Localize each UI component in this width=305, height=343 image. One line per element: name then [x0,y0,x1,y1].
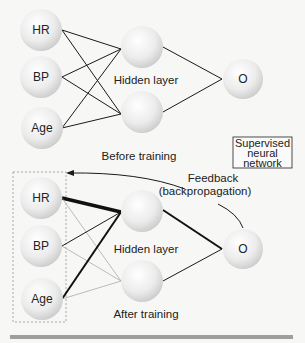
hidden-node-1 [121,26,163,68]
output-label: O [238,242,247,256]
hidden-node-2 [121,91,163,133]
before-training-caption: Before training [102,150,177,162]
neural-network-diagram: HR BP Age Hidden layer O Before training… [0,0,305,343]
hidden-layer-label: Hidden layer [114,74,179,86]
backpropagation-label: (backpropagation) [159,185,252,197]
after-training-caption: After training [113,308,178,320]
input-label-hr: HR [32,23,50,37]
supervised-neural-network-box: Supervised neural network [233,137,292,169]
input-label-hr: HR [32,191,50,205]
output-label: O [238,72,247,86]
before-training-network: HR BP Age Hidden layer O Before training [20,9,263,162]
input-label-bp: BP [33,239,49,253]
before-input-nodes: HR BP Age [20,9,63,149]
after-hidden-nodes: Hidden layer [114,190,179,302]
hidden-node-1 [121,190,163,232]
bottom-divider-bar [10,335,293,339]
input-label-bp: BP [33,70,49,84]
svg-text:network: network [243,157,282,169]
before-hidden-nodes: Hidden layer [114,26,179,133]
after-input-nodes: HR BP Age [20,177,63,320]
feedback-label: Feedback [188,172,239,184]
hidden-node-2 [121,260,163,302]
input-label-age: Age [31,292,53,306]
hidden-layer-label: Hidden layer [114,243,179,255]
feedback-leader-line [218,204,243,228]
input-label-age: Age [31,121,53,135]
after-output-node: O [223,229,263,269]
after-training-network: Feedback (backpropagation) HR BP Age Hid… [13,172,263,322]
before-output-node: O [223,59,263,99]
